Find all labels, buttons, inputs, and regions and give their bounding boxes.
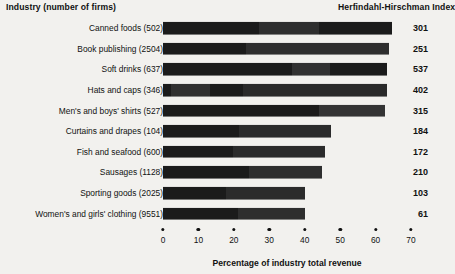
bar (163, 166, 322, 179)
hhi-value: 184 (392, 126, 428, 136)
bar (163, 146, 325, 159)
x-axis-title: Percentage of industry total revenue (163, 258, 411, 268)
bar-track (163, 22, 411, 35)
bar-segment (210, 84, 243, 97)
row-label: Canned foods (502) (89, 23, 163, 33)
bar-rows: Canned foods (502)301Book publishing (25… (0, 18, 433, 224)
bar-track (163, 207, 411, 220)
bar (163, 22, 392, 35)
bar-segment (163, 146, 233, 159)
hhi-value: 61 (392, 209, 428, 219)
bar (163, 207, 305, 220)
bar-segment (330, 63, 387, 76)
industry-column-header: Industry (number of firms) (6, 2, 116, 12)
bar-segment (171, 84, 210, 97)
axis-tick-label: 0 (161, 235, 166, 245)
bar-track (163, 166, 411, 179)
row-label: Women's and girls' clothing (9551) (35, 209, 163, 219)
bar-track (163, 146, 411, 159)
bar (163, 187, 305, 200)
bar-track (163, 43, 411, 56)
axis-tick-dot (303, 228, 306, 231)
bar-segment (319, 104, 385, 117)
axis-tick-label: 60 (371, 235, 380, 245)
row-label: Hats and caps (346) (88, 85, 163, 95)
bar-segment (163, 166, 249, 179)
hhi-value: 251 (392, 44, 428, 54)
chart-row: Hats and caps (346)402 (0, 80, 433, 101)
x-axis: 010203040506070 (163, 228, 411, 229)
bar-segment (163, 104, 319, 117)
row-label: Soft drinks (637) (102, 64, 163, 74)
row-label: Men's and boys' shirts (527) (59, 106, 163, 116)
bar (163, 104, 385, 117)
chart-row: Sausages (1128)210 (0, 162, 433, 183)
hhi-value: 315 (392, 106, 428, 116)
chart-row: Curtains and drapes (104)184 (0, 121, 433, 142)
bar-segment (163, 125, 239, 138)
row-label: Fish and seafood (600) (77, 147, 163, 157)
hhi-value: 172 (392, 147, 428, 157)
row-label: Curtains and drapes (104) (66, 126, 163, 136)
bar (163, 43, 389, 56)
chart-row: Women's and girls' clothing (9551)61 (0, 203, 433, 224)
bar-segment (243, 84, 387, 97)
bar-segment (319, 22, 392, 35)
axis-tick-label: 10 (194, 235, 203, 245)
axis-tick-label: 40 (300, 235, 309, 245)
bar-segment (238, 207, 305, 220)
chart-row: Sporting goods (2025)103 (0, 183, 433, 204)
axis-tick-dot (232, 228, 235, 231)
chart-row: Canned foods (502)301 (0, 18, 433, 39)
hhi-value: 103 (392, 188, 428, 198)
bar-segment (163, 22, 259, 35)
bar-segment (163, 84, 171, 97)
bar-track (163, 187, 411, 200)
row-label: Sporting goods (2025) (80, 188, 163, 198)
hhi-value: 537 (392, 64, 428, 74)
row-label: Sausages (1128) (100, 167, 163, 177)
chart-row: Soft drinks (637)537 (0, 59, 433, 80)
axis-tick-dot (161, 228, 164, 231)
hhi-column-header: Herfindahl-Hirschman Index (338, 2, 455, 12)
bar-segment (163, 63, 292, 76)
bar-segment (163, 43, 246, 56)
axis-tick-label: 20 (229, 235, 238, 245)
axis-tick-dot (374, 228, 377, 231)
axis-tick-label: 30 (265, 235, 274, 245)
axis-tick-dot (268, 228, 271, 231)
hhi-value: 210 (392, 167, 428, 177)
bar-segment (226, 187, 305, 200)
bar-segment (246, 43, 389, 56)
bar-segment (163, 187, 226, 200)
bar-track (163, 104, 411, 117)
row-label: Book publishing (2504) (77, 44, 163, 54)
bar-track (163, 84, 411, 97)
axis-tick-dot (409, 228, 412, 231)
bar-track (163, 125, 411, 138)
bar-segment (292, 63, 330, 76)
bar-segment (233, 146, 325, 159)
hhi-value: 402 (392, 85, 428, 95)
axis-tick-dot (197, 228, 200, 231)
axis-tick-label: 70 (406, 235, 415, 245)
hhi-value: 301 (392, 23, 428, 33)
chart-row: Book publishing (2504)251 (0, 39, 433, 60)
bar (163, 125, 331, 138)
bar-segment (259, 22, 319, 35)
bar-segment (249, 166, 322, 179)
bar-track (163, 63, 411, 76)
chart-row: Men's and boys' shirts (527)315 (0, 100, 433, 121)
axis-tick-label: 50 (335, 235, 344, 245)
axis-tick-dot (338, 228, 341, 231)
bar (163, 63, 387, 76)
bar-segment (163, 207, 238, 220)
bar (163, 84, 387, 97)
chart-row: Fish and seafood (600)172 (0, 142, 433, 163)
bar-segment (239, 125, 331, 138)
